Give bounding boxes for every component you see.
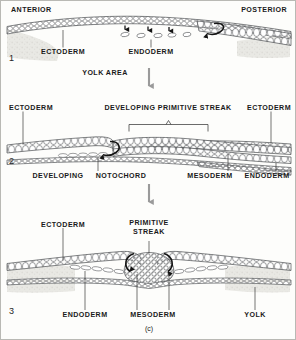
mesoderm-mass-panel3	[124, 253, 174, 285]
label-developing-primitive-streak: DEVELOPING PRIMITIVE STREAK	[104, 104, 231, 113]
label-posterior: POSTERIOR	[241, 6, 287, 15]
label-streak-panel3: STREAK	[133, 228, 165, 237]
ingressing-cells-panel1	[120, 32, 191, 38]
label-endoderm-panel2: ENDODERM	[245, 172, 290, 181]
label-ectoderm-panel1: ECTODERM	[41, 48, 85, 57]
panel-number-2: 2	[9, 156, 14, 166]
label-yolk-panel3: YOLK	[244, 311, 266, 320]
panel-number-1: 1	[9, 53, 14, 63]
embryo-gastrulation-figure: ANTERIOR POSTERIOR 1 ECTODERM ENDODERM Y…	[0, 0, 296, 340]
label-ectoderm-panel3: ECTODERM	[41, 221, 85, 230]
label-developing-panel2: DEVELOPING	[32, 172, 83, 181]
ingression-arrows-panel1	[125, 26, 169, 32]
panel-number-3: 3	[9, 306, 14, 316]
label-primitive-panel3: PRIMITIVE	[129, 219, 169, 228]
label-notochord-panel2: NOTOCHORD	[96, 172, 146, 181]
label-ectoderm-left-panel2: ECTODERM	[9, 104, 53, 113]
label-mesoderm-panel2: MESODERM	[187, 172, 232, 181]
figure-caption: (c)	[145, 325, 153, 332]
label-endoderm-panel1: ENDODERM	[129, 48, 174, 57]
primitive-streak-bracket	[129, 121, 208, 132]
label-ectoderm-right-panel2: ECTODERM	[247, 104, 291, 113]
label-yolk-area-panel1: YOLK AREA	[82, 69, 128, 78]
label-endoderm-panel3: ENDODERM	[63, 311, 108, 320]
label-mesoderm-panel3: MESODERM	[130, 311, 175, 320]
label-anterior: ANTERIOR	[11, 6, 52, 15]
